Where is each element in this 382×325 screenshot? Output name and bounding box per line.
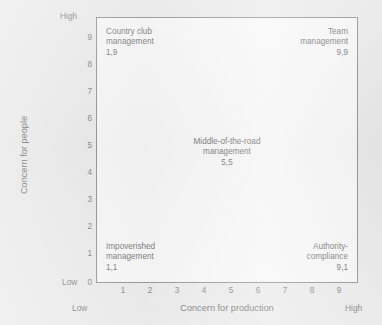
x-tick-6: 6	[252, 287, 264, 295]
x-tick-4: 4	[198, 287, 210, 295]
annotation-country-club-name: Country club	[106, 27, 152, 36]
y-axis-high-label: High	[60, 12, 77, 20]
annotation-authority-compliance: Authority- compliance 9,1	[307, 242, 348, 273]
y-tick-5: 5	[80, 142, 92, 150]
y-tick-0: 0	[80, 279, 92, 287]
y-axis-title: Concern for people	[19, 75, 29, 235]
x-tick-9: 9	[333, 287, 345, 295]
annotation-country-club: Country club management 1,9	[106, 27, 154, 58]
annotation-team-name2: management	[300, 37, 348, 46]
y-tick-8: 8	[80, 61, 92, 69]
managerial-grid-figure: Concern for people High Low 9 8 7 6 5 4 …	[0, 0, 382, 325]
annotation-team-coord: 9,9	[300, 48, 348, 58]
y-tick-6: 6	[80, 115, 92, 123]
annotation-middle-of-the-road: Middle-of-the-road management 5,5	[97, 137, 357, 168]
x-tick-1: 1	[117, 287, 129, 295]
annotation-middle-of-the-road-coord: 5,5	[97, 158, 357, 168]
x-tick-5: 5	[225, 287, 237, 295]
annotation-middle-of-the-road-name: Middle-of-the-road	[194, 137, 261, 146]
annotation-country-club-coord: 1,9	[106, 48, 154, 58]
annotation-authority-compliance-coord: 9,1	[307, 263, 348, 273]
annotation-team: Team management 9,9	[300, 27, 348, 58]
y-tick-9: 9	[80, 34, 92, 42]
annotation-country-club-name2: management	[106, 37, 154, 46]
annotation-authority-compliance-name: Authority-	[313, 242, 348, 251]
annotation-impoverished-name2: management	[106, 252, 154, 261]
annotation-authority-compliance-name2: compliance	[307, 252, 348, 261]
x-axis-low-label: Low	[72, 304, 87, 312]
y-tick-7: 7	[80, 88, 92, 96]
x-tick-7: 7	[279, 287, 291, 295]
plot-area: Country club management 1,9 Team managem…	[96, 17, 358, 283]
annotation-impoverished: Impoverished management 1,1	[106, 242, 155, 273]
annotation-impoverished-name: Impoverished	[106, 242, 155, 251]
x-tick-8: 8	[306, 287, 318, 295]
y-tick-1: 1	[80, 250, 92, 258]
y-tick-3: 3	[80, 196, 92, 204]
x-tick-3: 3	[171, 287, 183, 295]
annotation-team-name: Team	[328, 27, 348, 36]
y-axis-low-label: Low	[62, 278, 77, 286]
x-tick-2: 2	[144, 287, 156, 295]
x-axis-title: Concern for production	[96, 303, 358, 313]
y-tick-2: 2	[80, 223, 92, 231]
y-tick-4: 4	[80, 169, 92, 177]
annotation-middle-of-the-road-name2: management	[203, 147, 251, 156]
annotation-impoverished-coord: 1,1	[106, 263, 155, 273]
